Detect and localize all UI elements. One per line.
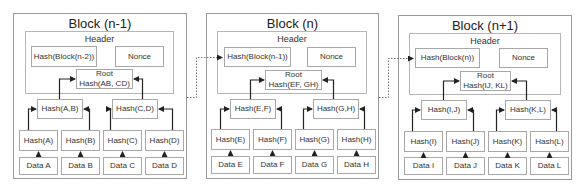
root-hash: Hash(EF, GH) [269, 80, 319, 90]
data-item: Data I [404, 157, 443, 175]
pair-hash: Hash(I,J) [421, 100, 467, 120]
data-item: Data L [530, 157, 569, 175]
data-item: Data H [337, 156, 376, 174]
merkle-root: Root Hash(IJ, KL) [460, 71, 511, 91]
pair-hash: Hash(A,B) [37, 99, 83, 119]
root-hash: Hash(IJ, KL) [463, 81, 507, 91]
nonce-box: Nonce [115, 46, 164, 67]
leaf-hash: Hash(A) [19, 130, 58, 151]
merkle-root: Root Hash(EF, GH) [265, 70, 322, 90]
data-item: Data A [19, 157, 58, 175]
header-label: Header [409, 36, 561, 46]
leaf-hash: Hash(B) [61, 130, 100, 151]
leaf-hash: Hash(J) [446, 131, 485, 152]
data-item: Data E [211, 156, 250, 174]
data-item: Data G [295, 156, 334, 174]
pair-hash: Hash(G,H) [313, 99, 359, 119]
block-title: Block (n+1) [398, 18, 572, 33]
leaf-hash: Hash(H) [337, 129, 376, 150]
nonce-box: Nonce [499, 48, 548, 68]
block-title: Block (n-1) [13, 16, 187, 31]
prev-block-hash: Hash(Block(n-2)) [31, 46, 97, 67]
data-item: Data D [145, 157, 184, 175]
block-title: Block (n) [206, 16, 379, 31]
data-item: Data F [253, 156, 292, 174]
pair-hash: Hash(E,F) [230, 99, 276, 119]
leaf-hash: Hash(I) [404, 131, 443, 152]
data-item: Data K [488, 157, 527, 175]
data-item: Data B [61, 157, 100, 175]
merkle-root: Root Hash(AB, CD) [76, 69, 133, 89]
leaf-hash: Hash(C) [103, 130, 142, 151]
pair-hash: Hash(C,D) [112, 99, 158, 119]
nonce-box: Nonce [307, 47, 356, 67]
data-item: Data J [446, 157, 485, 175]
leaf-hash: Hash(D) [145, 130, 184, 151]
leaf-hash: Hash(G) [295, 129, 334, 150]
root-label: Root [285, 70, 302, 80]
root-label: Root [96, 69, 113, 79]
root-hash: Hash(AB, CD) [79, 79, 130, 89]
root-label: Root [477, 71, 494, 81]
header-label: Header [25, 34, 174, 44]
header-label: Header [217, 34, 367, 44]
prev-block-hash: Hash(Block(n)) [415, 48, 480, 68]
leaf-hash: Hash(E) [211, 129, 250, 150]
leaf-hash: Hash(K) [488, 131, 527, 152]
pair-hash: Hash(K,L) [505, 100, 551, 120]
data-item: Data C [103, 157, 142, 175]
leaf-hash: Hash(F) [253, 129, 292, 150]
leaf-hash: Hash(L) [530, 131, 569, 152]
prev-block-hash: Hash(Block(n-1)) [224, 47, 291, 67]
